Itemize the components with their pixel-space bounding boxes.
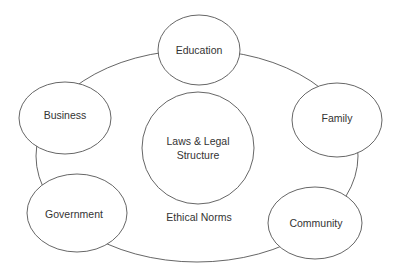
- node-label: Government: [45, 208, 103, 220]
- node-community: Community: [268, 187, 362, 259]
- center-label-line2: Structure: [177, 149, 220, 161]
- node-label: Community: [289, 217, 343, 229]
- node-label: Education: [176, 44, 223, 56]
- node-business: Business: [19, 82, 111, 154]
- node-education: Education: [158, 15, 240, 85]
- node-label: Family: [322, 112, 354, 124]
- influence-diagram: Education Business Family Government Com…: [0, 0, 397, 273]
- center-label-line1: Laws & Legal: [166, 135, 229, 147]
- center-laws-legal-structure: Laws & Legal Structure: [142, 92, 254, 204]
- node-label: Business: [44, 109, 87, 121]
- ethical-norms-label: Ethical Norms: [166, 211, 231, 223]
- node-family: Family: [292, 83, 382, 157]
- node-government: Government: [27, 174, 127, 252]
